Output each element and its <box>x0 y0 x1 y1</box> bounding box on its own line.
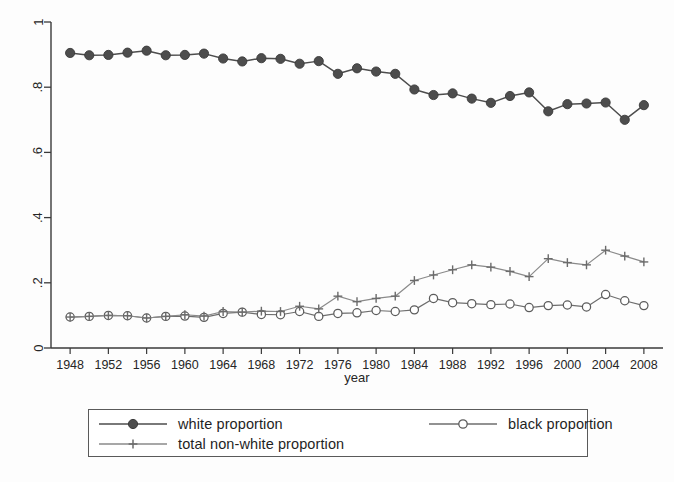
x-tick-label: 2004 <box>592 358 620 372</box>
x-tick-label: 1996 <box>515 358 543 372</box>
legend-entry-total-nonwhite: total non-white proportion <box>97 436 344 452</box>
legend-label-total-nonwhite: total non-white proportion <box>178 436 344 452</box>
y-tick-label: 1 <box>31 18 46 25</box>
y-tick-label: .4 <box>31 212 46 223</box>
legend-label-black: black proportion <box>508 416 613 432</box>
y-tick-label: .6 <box>31 147 46 158</box>
x-tick-label: 1972 <box>286 358 314 372</box>
x-axis-ticks <box>70 348 644 354</box>
y-tick-label: .2 <box>31 277 46 288</box>
data-series-layer <box>66 46 649 322</box>
x-tick-label: 1948 <box>56 358 84 372</box>
series-white-proportion <box>66 46 649 124</box>
x-tick-label: 1968 <box>247 358 275 372</box>
y-tick-label: 0 <box>31 344 46 351</box>
x-axis-title: year <box>344 370 370 385</box>
x-tick-label: 2008 <box>630 358 658 372</box>
x-tick-label: 1992 <box>477 358 505 372</box>
y-axis-ticks <box>44 22 51 348</box>
x-tick-label: 1964 <box>209 358 237 372</box>
x-tick-label: 2000 <box>553 358 581 372</box>
x-tick-label: 1952 <box>94 358 122 372</box>
x-tick-label: 1956 <box>133 358 161 372</box>
legend-marker-open-circle-icon <box>427 417 499 431</box>
legend-entry-black: black proportion <box>427 416 613 432</box>
legend-marker-filled-circle-icon <box>97 417 169 431</box>
legend-label-white: white proportion <box>178 416 283 432</box>
y-tick-label: .8 <box>31 82 46 93</box>
chart-legend: white proportion black proportion total … <box>88 409 588 457</box>
y-axis-tick-labels: 0.2.4.6.81 <box>31 18 46 351</box>
legend-entry-white: white proportion <box>97 416 283 432</box>
x-tick-label: 1984 <box>400 358 428 372</box>
legend-marker-plus-icon <box>97 437 169 451</box>
x-tick-label: 1988 <box>439 358 467 372</box>
chart-figure: 0.2.4.6.81 19481952195619601964196819721… <box>0 0 674 482</box>
x-tick-label: 1960 <box>171 358 199 372</box>
